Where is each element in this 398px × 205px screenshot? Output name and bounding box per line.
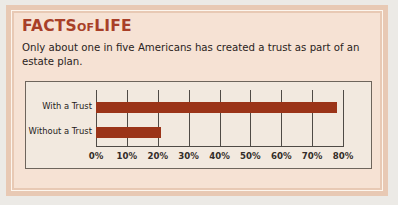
scanned-page: FACTSOFLIFE Only about one in five Ameri… xyxy=(0,0,398,205)
x-tick-label-70%: 70% xyxy=(302,151,323,161)
page-title-word-3: LIFE xyxy=(94,17,132,35)
plot-area xyxy=(96,90,343,146)
page-title-word-2: OF xyxy=(77,21,94,34)
page-title: FACTSOFLIFE xyxy=(22,19,132,35)
x-tick-label-20%: 20% xyxy=(147,151,168,161)
x-tick-label-0%: 0% xyxy=(89,151,104,161)
x-tick-label-80%: 80% xyxy=(333,151,354,161)
gridline-30% xyxy=(189,90,190,146)
body-paragraph: Only about one in five Americans has cre… xyxy=(22,41,368,69)
x-tick-label-30%: 30% xyxy=(178,151,199,161)
bar-without-a-trust xyxy=(96,127,161,138)
gridline-40% xyxy=(220,90,221,146)
gridline-60% xyxy=(281,90,282,146)
category-label-with-a-trust: With a Trust xyxy=(42,101,92,111)
category-axis: With a TrustWithout a Trust xyxy=(26,90,92,146)
category-label-without-a-trust: Without a Trust xyxy=(29,126,92,136)
x-tick-label-50%: 50% xyxy=(240,151,261,161)
x-tick-label-60%: 60% xyxy=(271,151,292,161)
x-tick-label-10%: 10% xyxy=(117,151,138,161)
bar-with-a-trust xyxy=(96,102,337,113)
gridline-80% xyxy=(343,90,344,146)
page-title-word-1: FACTS xyxy=(22,17,77,35)
x-axis-line xyxy=(96,146,344,147)
gridline-70% xyxy=(312,90,313,146)
x-tick-label-40%: 40% xyxy=(209,151,230,161)
gridline-50% xyxy=(250,90,251,146)
chart-container: With a TrustWithout a Trust 0%10%20%30%4… xyxy=(25,81,372,169)
